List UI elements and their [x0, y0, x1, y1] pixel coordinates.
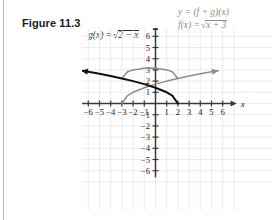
y-tick-label: 6	[146, 31, 151, 41]
left-rule-divider	[3, 0, 4, 220]
y-tick-label: −5	[141, 155, 150, 165]
y-tick-label: −6	[141, 166, 151, 176]
x-tick-label: 1	[165, 107, 169, 117]
y-tick-label: −1	[141, 110, 150, 120]
x-tick-label: −5	[95, 107, 104, 117]
tick-labels: −6−5−4−3−2−1123456654321−1−2−3−4−5−6xy	[84, 28, 245, 176]
plot-svg: −6−5−4−3−2−1123456654321−1−2−3−4−5−6xy	[82, 28, 272, 210]
equation-sum-label: y = (f + g)(x)	[178, 7, 229, 17]
figure-container: Figure 11.3 g(x) =√2 − x y = (f + g)(x) …	[0, 0, 278, 220]
x-tick-label: 2	[176, 107, 180, 117]
coordinate-plot: −6−5−4−3−2−1123456654321−1−2−3−4−5−6xy	[82, 28, 272, 210]
x-tick-label: −4	[106, 107, 116, 117]
x-tick-label: 4	[198, 107, 203, 117]
x-tick-label: 3	[187, 107, 191, 117]
series-curve	[82, 69, 178, 104]
figure-title: Figure 11.3	[22, 17, 81, 29]
x-tick-label: 6	[221, 107, 226, 117]
y-tick-label: −4	[141, 143, 151, 153]
x-tick-label: −6	[84, 107, 94, 117]
y-tick-label: 5	[146, 43, 150, 53]
series-curve	[122, 69, 218, 104]
x-tick-label: 5	[209, 107, 213, 117]
axes	[82, 28, 237, 177]
x-axis-label: x	[240, 99, 245, 109]
y-tick-label: 1	[146, 87, 150, 97]
y-tick-label: 3	[146, 65, 150, 75]
y-axis-arrow	[153, 28, 159, 30]
y-tick-label: 4	[146, 54, 151, 64]
x-tick-label: −2	[129, 107, 138, 117]
y-tick-label: −2	[141, 121, 150, 131]
x-tick-label: −3	[117, 107, 126, 117]
y-tick-label: −3	[141, 132, 150, 142]
grid-lines	[82, 28, 272, 210]
